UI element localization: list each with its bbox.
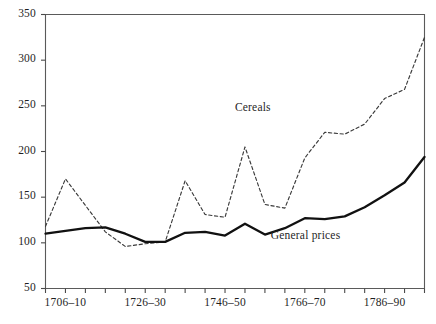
chart-plot-area <box>0 0 436 324</box>
y-axis-tick-label: 200 <box>6 144 36 156</box>
y-axis-ticks <box>41 15 46 289</box>
x-axis-ticks <box>46 289 425 294</box>
y-axis-tick-label: 300 <box>6 52 36 64</box>
y-axis-tick-label: 350 <box>6 7 36 19</box>
series-line-cereals <box>46 37 425 246</box>
x-axis-tick-label: 1726–30 <box>110 296 180 308</box>
x-axis-tick-label: 1746–50 <box>190 296 260 308</box>
y-axis-tick-label: 150 <box>6 189 36 201</box>
series-line-general-prices <box>46 157 425 242</box>
x-axis-tick-label: 1786–90 <box>350 296 420 308</box>
x-axis-tick-label: 1706–10 <box>30 296 100 308</box>
series-label-cereals: Cereals <box>235 101 271 113</box>
y-axis-tick-label: 50 <box>6 281 36 293</box>
chart-figure: 50100150200250300350 1706–101726–301746–… <box>0 0 436 324</box>
axis-frame <box>46 15 425 289</box>
y-axis-tick-label: 100 <box>6 235 36 247</box>
y-axis-tick-label: 250 <box>6 98 36 110</box>
series-label-general-prices: General prices <box>271 229 341 241</box>
series-lines <box>46 37 425 246</box>
x-axis-tick-label: 1766–70 <box>270 296 340 308</box>
